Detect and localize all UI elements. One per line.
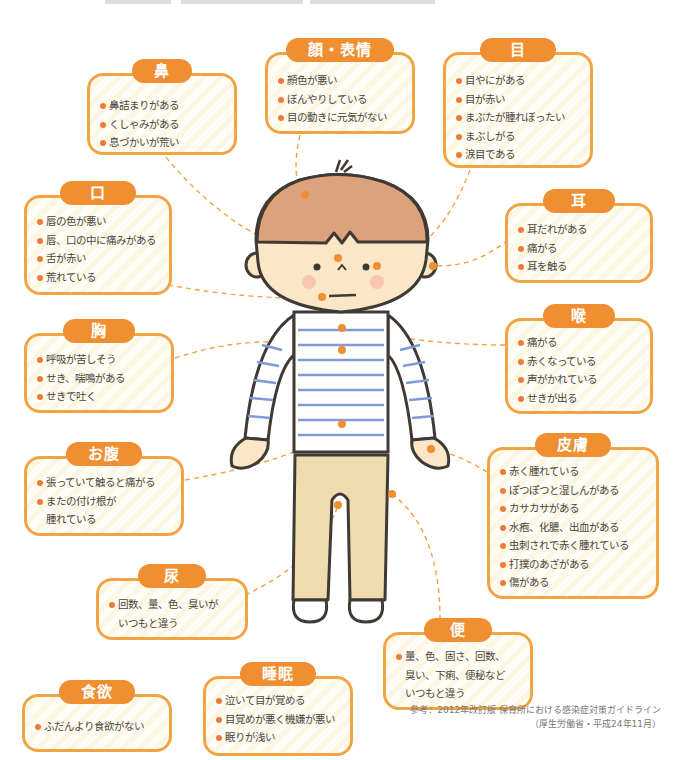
card-eye: 目 目やにがある 目が赤い まぶたが腫れぼったい まぶしがる 涙目である: [443, 52, 593, 168]
card-nose: 鼻 鼻詰まりがある くしゃみがある 息づかいが荒い: [87, 73, 237, 155]
card-title: 食欲: [59, 680, 135, 704]
reference-line-2: （厚生労働省・平成24年11月）: [410, 717, 661, 731]
card-stool: 便 量、色、固さ、回数、 臭い、下痢、便秘など いつもと違う: [383, 632, 533, 710]
connector-stool: [392, 494, 440, 620]
card-title: 尿: [138, 564, 206, 588]
list-item: くしゃみがある: [100, 115, 179, 134]
list-item: せき、喘鳴がある: [37, 369, 125, 388]
list-item: 目やにがある: [456, 71, 565, 90]
list-item: 赤く腫れている: [500, 462, 629, 481]
list-item: 舌が赤い: [37, 249, 156, 268]
list-item: せきで吐く: [37, 387, 125, 406]
card-ear: 耳 耳だれがある 痛がる 耳を触る: [505, 203, 653, 283]
list-item: 張っていて触ると痛がる: [37, 473, 155, 492]
connector-ear: [432, 240, 508, 266]
list-item: カサカサがある: [500, 499, 629, 518]
reference-note: 参考：2012年改訂版 保育所における感染症対策ガイドライン （厚生労働省・平成…: [410, 703, 661, 731]
list-item: 眠りが浅い: [216, 728, 335, 747]
card-title: 便: [424, 618, 492, 642]
list-item: 涙目である: [456, 145, 565, 164]
card-chest: 胸 呼吸が苦しそう せき、喘鳴がある せきで吐く: [24, 333, 174, 413]
list-item: 声がかれている: [518, 370, 597, 389]
list-item: ふだんより食欲がない: [35, 717, 144, 736]
list-item: ぼんやりしている: [278, 90, 387, 109]
card-title: 睡眠: [240, 662, 316, 686]
list-item: 目覚めが悪く機嫌が悪い: [216, 710, 335, 729]
list-item: 腫れている: [37, 510, 155, 529]
card-title: 顔・表情: [286, 38, 394, 62]
list-item: 唇の色が悪い: [37, 212, 156, 231]
card-mouth: 口 唇の色が悪い 唇、口の中に痛みがある 舌が赤い 荒れている: [24, 195, 172, 295]
list-item: 鼻詰まりがある: [100, 96, 179, 115]
list-item: 傷がある: [500, 573, 629, 592]
card-title: 皮膚: [535, 433, 611, 457]
list-item: 痛がる: [518, 333, 597, 352]
card-belly: お腹 張っていて触ると痛がる またの付け根が 腫れている: [24, 456, 184, 536]
list-item: 目の動きに元気がない: [278, 108, 387, 127]
list-item: まぶしがる: [456, 127, 565, 146]
list-item: いつもと違う: [396, 684, 505, 703]
list-item: まぶたが腫れぼったい: [456, 108, 565, 127]
card-title: 耳: [543, 189, 615, 213]
list-item: 息づかいが荒い: [100, 133, 179, 152]
list-item: 呼吸が苦しそう: [37, 350, 125, 369]
list-item: 唇、口の中に痛みがある: [37, 231, 156, 250]
list-item: 打撲のあざがある: [500, 555, 629, 574]
card-face: 顔・表情 顔色が悪い ぼんやりしている 目の動きに元気がない: [265, 52, 415, 134]
list-item: 目が赤い: [456, 90, 565, 109]
reference-line-1: 参考：2012年改訂版 保育所における感染症対策ガイドライン: [410, 703, 661, 717]
card-title: 鼻: [132, 59, 192, 83]
list-item: 痛がる: [518, 239, 587, 258]
card-sleep: 睡眠 泣いて目が覚める 目覚めが悪く機嫌が悪い 眠りが浅い: [203, 676, 353, 756]
list-item: 回数、量、色、臭いが: [109, 595, 218, 614]
card-skin: 皮膚 赤く腫れている ぽつぽつと湿しんがある カサカサがある 水疱、化膿、出血が…: [487, 447, 659, 599]
list-item: 耳だれがある: [518, 220, 587, 239]
list-item: 臭い、下痢、便秘など: [396, 666, 505, 685]
card-title: 胸: [63, 319, 135, 343]
list-item: 量、色、固さ、回数、: [396, 647, 505, 666]
list-item: 顔色が悪い: [278, 71, 387, 90]
card-throat: 喉 痛がる 赤くなっている 声がかれている せきが出る: [505, 318, 653, 414]
card-title: お腹: [66, 442, 142, 466]
card-title: 目: [480, 38, 556, 62]
card-urine: 尿 回数、量、色、臭いが いつもと違う: [96, 578, 248, 640]
card-title: 喉: [543, 304, 615, 328]
list-item: 水疱、化膿、出血がある: [500, 518, 629, 537]
list-item: 荒れている: [37, 268, 156, 287]
list-item: 耳を触る: [518, 257, 587, 276]
list-item: 赤くなっている: [518, 352, 597, 371]
list-item: 虫刺されで赤く腫れている: [500, 536, 629, 555]
card-title: 口: [60, 181, 136, 205]
list-item: またの付け根が: [37, 492, 155, 511]
list-item: ぽつぽつと湿しんがある: [500, 481, 629, 500]
list-item: せきが出る: [518, 389, 597, 408]
card-appetite: 食欲 ふだんより食欲がない: [22, 694, 172, 752]
list-item: いつもと違う: [109, 614, 218, 633]
list-item: 泣いて目が覚める: [216, 691, 335, 710]
